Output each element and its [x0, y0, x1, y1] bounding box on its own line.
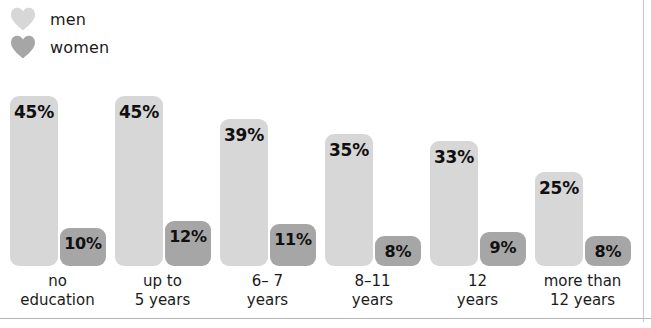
bar-value-label: 10% [60, 234, 106, 253]
bar-group: 39%11%6– 7years [215, 0, 320, 328]
bar-men: 39% [220, 119, 268, 266]
bar-value-label: 45% [115, 102, 163, 122]
bar-value-label: 39% [220, 125, 268, 145]
bar-value-label: 8% [375, 242, 421, 261]
bar-value-label: 25% [535, 178, 583, 198]
bar-chart: men women 45%10%noeducation45%12%up to5 … [0, 0, 651, 328]
bar-group: 45%10%noeducation [5, 0, 110, 328]
category-label: 12years [425, 272, 530, 310]
bar-women: 10% [60, 228, 106, 266]
bar-men: 25% [535, 172, 583, 267]
category-label: 6– 7years [215, 272, 320, 310]
bar-women: 8% [375, 236, 421, 266]
bar-value-label: 11% [270, 230, 316, 249]
bar-value-label: 12% [165, 227, 211, 246]
bar-group: 45%12%up to5 years [110, 0, 215, 328]
category-label: more than12 years [530, 272, 635, 310]
category-label: 8–11years [320, 272, 425, 310]
bar-value-label: 35% [325, 140, 373, 160]
plot-area: 45%10%noeducation45%12%up to5 years39%11… [0, 0, 651, 328]
bar-women: 12% [165, 221, 211, 266]
bar-group: 33%9%12years [425, 0, 530, 328]
bar-value-label: 9% [480, 238, 526, 257]
bar-men: 45% [115, 96, 163, 266]
bar-men: 35% [325, 134, 373, 266]
bar-group: 35%8%8–11years [320, 0, 425, 328]
bar-men: 33% [430, 141, 478, 266]
bar-value-label: 8% [585, 242, 631, 261]
frame-right-rule [643, 0, 644, 322]
bar-women: 8% [585, 236, 631, 266]
bar-value-label: 45% [10, 102, 58, 122]
bar-women: 9% [480, 232, 526, 266]
bar-men: 45% [10, 96, 58, 266]
bar-value-label: 33% [430, 147, 478, 167]
axis-baseline [0, 318, 651, 319]
category-label: noeducation [5, 272, 110, 310]
bar-women: 11% [270, 224, 316, 266]
bar-group: 25%8%more than12 years [530, 0, 635, 328]
category-label: up to5 years [110, 272, 215, 310]
